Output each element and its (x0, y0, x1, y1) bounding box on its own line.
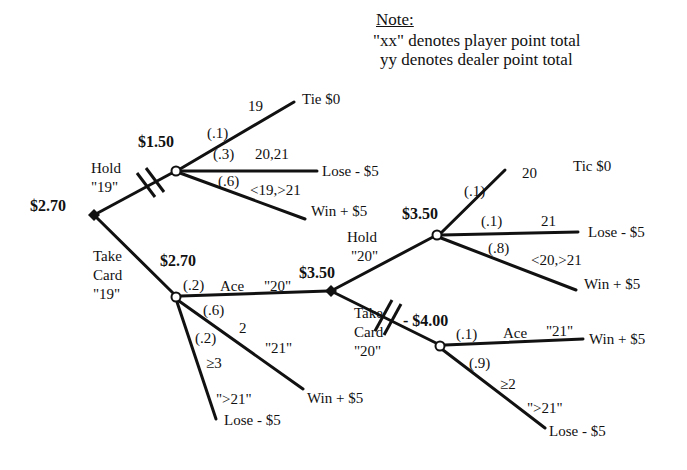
action-take20-line3: "20" (354, 343, 381, 359)
hold19-lose-outcome: Lose - $5 (322, 163, 379, 179)
hold20-tie-outcome: Tic $0 (573, 158, 611, 174)
hold19-tie-prob: (.1) (207, 125, 228, 141)
take19-three-outcome: Lose - $5 (224, 412, 281, 428)
chance-node-hold20-icon (433, 231, 442, 240)
branch-take20-two-plus (443, 350, 545, 428)
branch-hold20-lose (442, 232, 578, 235)
branch-hold-20 (331, 237, 433, 291)
prune-mark-hold19 (137, 168, 164, 197)
hold20-tie-prob: (.1) (464, 183, 485, 199)
hold19-win-event: <19,>21 (250, 182, 301, 198)
take20-ace-prob: (.1) (456, 326, 477, 342)
take19-three-event: ≥3 (206, 355, 222, 371)
action-take19-line1: Take (93, 248, 122, 264)
take20-two-event: ≥2 (500, 376, 516, 392)
take19-three-prob: (.2) (195, 330, 216, 346)
note-title: Note: (376, 12, 414, 28)
hold19-lose-prob: (.3) (213, 146, 234, 162)
hold20-lose-prob: (.1) (481, 213, 502, 229)
hold20-win-prob: (.8) (488, 240, 509, 256)
hold19-lose-event: 20,21 (255, 146, 289, 162)
take19-two-outcome: Win + $5 (307, 390, 363, 406)
take20-ace-outcome: Win + $5 (589, 331, 645, 347)
blackjack-decision-tree: Note: "xx" denotes player point total yy… (0, 0, 687, 470)
hold19-tie-outcome: Tie $0 (302, 91, 340, 107)
take19-three-total: ">21" (216, 391, 252, 407)
hold19-win-prob: (.6) (218, 173, 239, 189)
action-hold19-line2: "19" (91, 179, 118, 195)
dec20-value: $3.50 (299, 265, 335, 281)
action-hold19-line1: Hold (91, 160, 121, 176)
take20-ace-total: "21" (546, 323, 573, 339)
take19-ace-total: "20" (264, 278, 291, 294)
take20-ace-event: Ace (503, 325, 527, 341)
take19-value: $2.70 (160, 253, 196, 269)
action-take20-line1: Take (354, 305, 383, 321)
take20-two-total: ">21" (527, 400, 563, 416)
root-value: $2.70 (30, 198, 66, 214)
take20-two-outcome: Lose - $5 (549, 423, 606, 439)
action-hold20-line1: Hold (347, 229, 377, 245)
hold20-lose-event: 21 (541, 213, 556, 229)
action-take19-line2: Card (93, 267, 122, 283)
chance-node-take20-icon (436, 342, 445, 351)
chance-node-take19-icon (172, 293, 181, 302)
hold20-lose-outcome: Lose - $5 (588, 224, 645, 240)
take19-two-prob: (.6) (203, 302, 224, 318)
take19-two-total: "21" (265, 340, 292, 356)
hold19-win-outcome: Win + $5 (311, 203, 367, 219)
take19-ace-event: Ace (220, 278, 244, 294)
hold20-tie-event: 20 (522, 165, 537, 181)
action-take19-line3: "19" (93, 286, 120, 302)
hold20-win-event: <20,>21 (531, 252, 582, 268)
hold20-win-outcome: Win + $5 (584, 276, 640, 292)
note-line-dealer: yy denotes dealer point total (380, 50, 573, 69)
decision-node-20-icon (325, 285, 337, 297)
note-line-player: "xx" denotes player point total (373, 31, 580, 50)
hold19-tie-event: 19 (248, 98, 263, 114)
action-take20-line2: Card (354, 324, 383, 340)
take20-two-prob: (.9) (469, 355, 490, 371)
hold20-value: $3.50 (402, 206, 438, 222)
action-hold20-line2: "20" (351, 248, 378, 264)
take19-two-event: 2 (239, 320, 247, 336)
chance-node-hold19-icon (172, 167, 181, 176)
hold19-value: $1.50 (138, 134, 174, 150)
take19-ace-prob: (.2) (183, 277, 204, 293)
take20-value: - $4.00 (403, 313, 448, 329)
